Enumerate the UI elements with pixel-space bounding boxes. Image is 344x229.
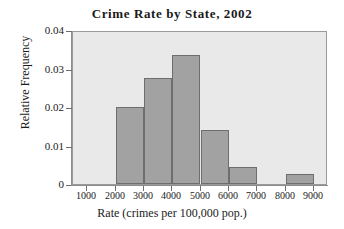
- y-axis-tick: [66, 108, 72, 109]
- histogram-bar: [229, 167, 257, 184]
- plot-area: [72, 31, 327, 185]
- y-axis-tick: [66, 147, 72, 148]
- histogram-bar: [286, 174, 314, 184]
- x-axis-title: Rate (crimes per 100,000 pop.): [0, 206, 344, 221]
- y-axis-tick-label: 0.03: [4, 63, 64, 75]
- y-axis-title: Relative Frequency: [18, 8, 33, 158]
- histogram-figure: Crime Rate by State, 2002 00.010.020.030…: [0, 0, 344, 229]
- y-axis-tick-label: 0: [4, 178, 64, 190]
- histogram-bar: [144, 78, 172, 184]
- y-axis-tick-label: 0.04: [4, 24, 64, 36]
- bars-layer: [73, 32, 326, 184]
- histogram-bar: [172, 55, 200, 184]
- chart-title: Crime Rate by State, 2002: [0, 6, 344, 22]
- histogram-bar: [116, 107, 144, 184]
- y-axis-tick: [66, 70, 72, 71]
- histogram-bar: [201, 130, 229, 184]
- y-axis-tick-label: 0.02: [4, 101, 64, 113]
- y-axis-tick-label: 0.01: [4, 140, 64, 152]
- x-axis-tick-label: 9000: [293, 190, 333, 201]
- y-axis-tick: [66, 31, 72, 32]
